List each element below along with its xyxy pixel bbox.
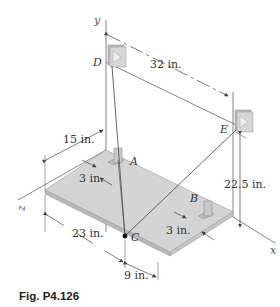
- point-b-label: B: [189, 192, 198, 205]
- dim-b-offset-2: [202, 232, 214, 240]
- dim-de-span-label: 32 in.: [150, 58, 182, 71]
- dim-b-offset-label: 3 in.: [166, 224, 191, 237]
- point-c-label: C: [131, 231, 140, 244]
- dim-left-depth-label: 15 in.: [63, 133, 95, 146]
- point-a-label: A: [129, 155, 138, 168]
- plate-cable-diagram: y x z 32 in. D E A B: [0, 0, 280, 307]
- figure-caption: Fig. P4.126: [19, 290, 79, 302]
- point-d-label: D: [92, 56, 102, 69]
- point-e-label: E: [219, 123, 228, 136]
- y-axis-label: y: [93, 14, 101, 27]
- dim-a-offset-label: 3 in.: [79, 172, 104, 185]
- dim-c-offset-label: 9 in.: [124, 269, 149, 282]
- x-axis: [233, 217, 275, 243]
- bracket-e: [235, 110, 253, 132]
- bracket-d: [108, 45, 126, 67]
- dim-e-height-label: 22.5 in.: [224, 178, 266, 191]
- x-axis-label: x: [270, 244, 277, 257]
- wall-line-de: [106, 62, 236, 125]
- z-axis-label: z: [15, 205, 28, 212]
- dim-front-length-label: 23 in.: [72, 227, 104, 240]
- point-c: [123, 234, 128, 239]
